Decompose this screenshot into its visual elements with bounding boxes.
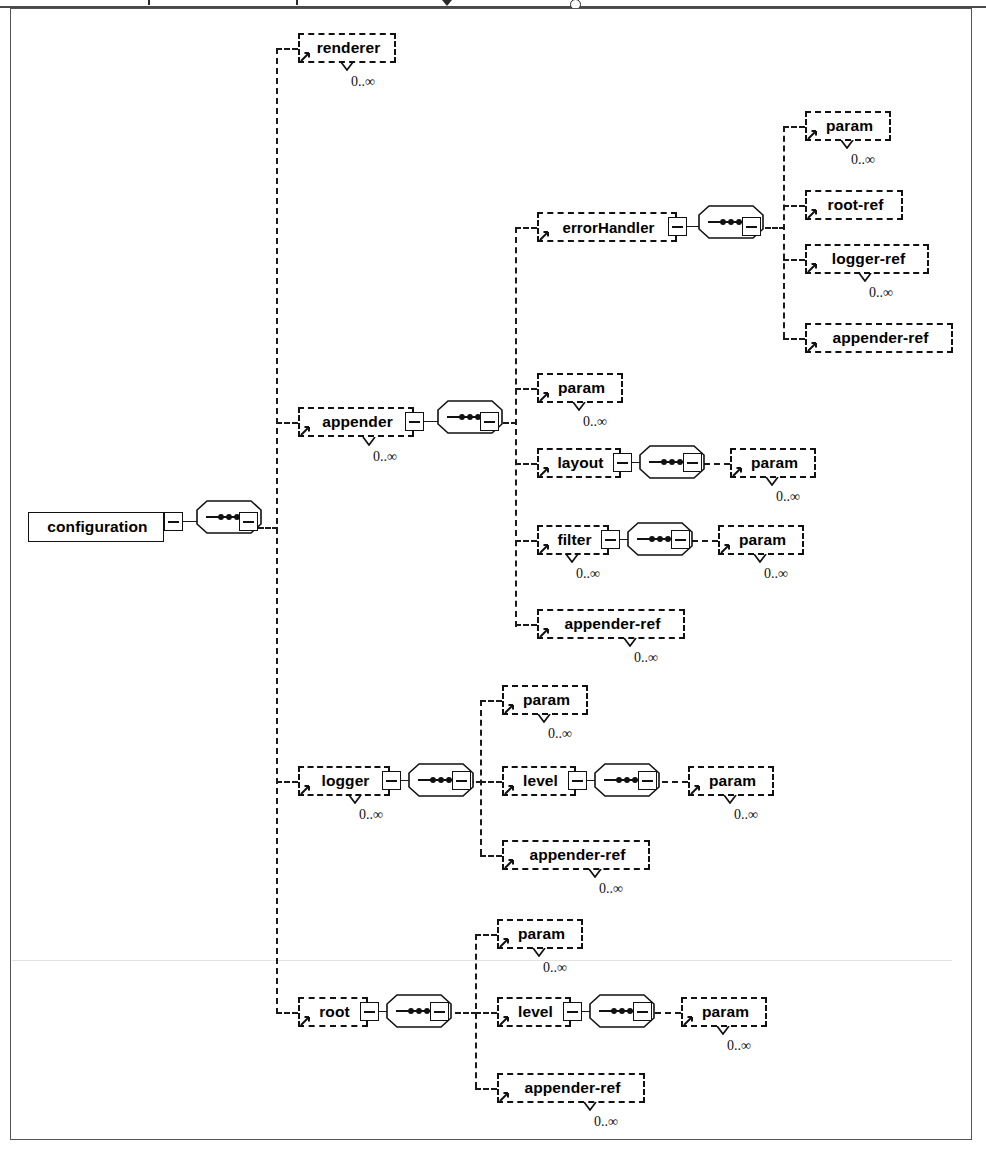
node-logger-level-param-label: param	[688, 766, 774, 796]
expand-toggle-root-children[interactable]	[430, 1002, 449, 1021]
cardinality-layout-param: 0..∞	[776, 489, 800, 505]
collapse-toggle-layout[interactable]	[613, 453, 632, 472]
node-logger-label: logger	[298, 766, 390, 796]
node-appender-param-label: param	[537, 373, 623, 403]
page-break-rule	[12, 960, 952, 961]
node-root[interactable]: root	[298, 997, 368, 1027]
node-logger-ref-label: logger-ref	[805, 244, 929, 274]
node-errorhandler[interactable]: errorHandler	[537, 212, 677, 242]
cardinality-appender: 0..∞	[373, 449, 397, 465]
node-appender-param[interactable]: param	[537, 373, 623, 403]
collapse-toggle-root-level[interactable]	[563, 1002, 582, 1021]
wire-root-stub	[455, 1012, 477, 1014]
cardinality-root-appender-ref: 0..∞	[594, 1114, 618, 1130]
node-configuration[interactable]: configuration	[28, 512, 164, 542]
collapse-toggle-filter[interactable]	[601, 530, 620, 549]
node-filter-param[interactable]: param	[718, 525, 804, 555]
wire-to-eh-appender-ref	[783, 338, 805, 340]
cardinality-appender-appender-ref: 0..∞	[634, 650, 658, 666]
wire-to-eh-param	[783, 126, 805, 128]
collapse-toggle-configuration[interactable]	[164, 512, 183, 531]
expand-toggle-logger-level-children[interactable]	[638, 771, 657, 790]
ruler-marker-triangle	[442, 0, 452, 6]
wire-to-logger	[276, 781, 298, 783]
node-configuration-label: configuration	[28, 512, 164, 542]
node-root-ref-label: root-ref	[805, 190, 903, 220]
node-errorhandler-param[interactable]: param	[805, 111, 891, 141]
expand-toggle-logger-children[interactable]	[452, 771, 471, 790]
node-appender[interactable]: appender	[298, 407, 414, 437]
cardinality-root-level-param: 0..∞	[727, 1038, 751, 1054]
node-root-level-param[interactable]: param	[681, 997, 767, 1027]
node-layout-param[interactable]: param	[730, 448, 816, 478]
wire-to-layout	[515, 463, 537, 465]
expand-toggle-layout-children[interactable]	[683, 453, 702, 472]
wire-to-root-appender-ref	[475, 1088, 497, 1090]
cardinality-logger: 0..∞	[359, 807, 383, 823]
cardinality-root-param: 0..∞	[543, 960, 567, 976]
wire-to-appender-param	[515, 388, 537, 390]
wire-filter-to-param	[692, 540, 718, 542]
toolbar-strip	[0, 0, 986, 8]
diagram-canvas	[10, 8, 972, 1140]
expand-toggle-errorhandler-children[interactable]	[742, 217, 761, 236]
node-root-level[interactable]: level	[497, 997, 571, 1027]
node-root-param[interactable]: param	[497, 919, 583, 949]
wire-rootlevel-to-param	[655, 1012, 681, 1014]
collapse-toggle-logger-level[interactable]	[568, 771, 587, 790]
expand-toggle-filter-children[interactable]	[671, 530, 690, 549]
node-errorhandler-appender-ref-label: appender-ref	[805, 323, 953, 353]
expand-toggle-appender-children[interactable]	[480, 412, 499, 431]
expand-toggle-configuration-children[interactable]	[239, 512, 258, 531]
node-layout-param-label: param	[730, 448, 816, 478]
node-logger-param-label: param	[502, 685, 588, 715]
node-logger-appender-ref[interactable]: appender-ref	[502, 840, 650, 870]
node-appender-appender-ref[interactable]: appender-ref	[537, 609, 685, 639]
ruler-tick	[148, 0, 150, 5]
node-logger-param[interactable]: param	[502, 685, 588, 715]
node-layout-label: layout	[537, 448, 621, 478]
cardinality-filter-param: 0..∞	[764, 566, 788, 582]
node-root-ref[interactable]: root-ref	[805, 190, 903, 220]
cardinality-logger-appender-ref: 0..∞	[599, 881, 623, 897]
wire-to-logger-appender-ref	[480, 855, 502, 857]
wire-to-logger-param	[480, 700, 502, 702]
cardinality-logger-level-param: 0..∞	[734, 807, 758, 823]
cardinality-errorhandler-param: 0..∞	[851, 152, 875, 168]
node-root-appender-ref[interactable]: appender-ref	[497, 1073, 645, 1103]
node-logger-appender-ref-label: appender-ref	[502, 840, 650, 870]
node-errorhandler-param-label: param	[805, 111, 891, 141]
collapse-toggle-errorhandler[interactable]	[668, 217, 687, 236]
collapse-toggle-logger[interactable]	[382, 771, 401, 790]
node-logger[interactable]: logger	[298, 766, 390, 796]
wire-root-spine	[475, 934, 477, 1088]
node-filter-label: filter	[537, 525, 609, 555]
wire-logger-spine	[480, 700, 482, 855]
expand-toggle-root-level-children[interactable]	[633, 1002, 652, 1021]
node-errorhandler-appender-ref[interactable]: appender-ref	[805, 323, 953, 353]
node-renderer[interactable]: renderer	[298, 33, 396, 63]
node-appender-appender-ref-label: appender-ref	[537, 609, 685, 639]
node-logger-level-label: level	[502, 766, 576, 796]
cardinality-logger-ref: 0..∞	[869, 285, 893, 301]
node-root-param-label: param	[497, 919, 583, 949]
node-logger-level[interactable]: level	[502, 766, 576, 796]
wire-level-to-param	[662, 781, 688, 783]
node-logger-level-param[interactable]: param	[688, 766, 774, 796]
node-logger-ref[interactable]: logger-ref	[805, 244, 929, 274]
wire-to-logger-level	[480, 781, 502, 783]
ruler-tick	[296, 0, 298, 5]
node-root-label: root	[298, 997, 368, 1027]
wire-to-logger-ref	[783, 259, 805, 261]
node-filter[interactable]: filter	[537, 525, 609, 555]
collapse-toggle-appender[interactable]	[405, 412, 424, 431]
collapse-toggle-root[interactable]	[360, 1002, 379, 1021]
node-root-level-param-label: param	[681, 997, 767, 1027]
node-layout[interactable]: layout	[537, 448, 621, 478]
wire-main-spine	[276, 48, 278, 1014]
node-renderer-label: renderer	[298, 33, 396, 63]
cardinality-renderer: 0..∞	[351, 74, 375, 90]
wire-to-appender-ref	[515, 624, 537, 626]
cardinality-logger-param: 0..∞	[548, 726, 572, 742]
wire-to-filter	[515, 540, 537, 542]
